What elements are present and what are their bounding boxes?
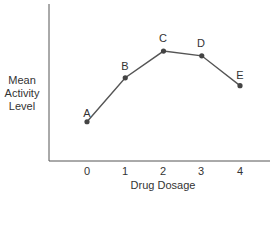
data-point-c: [161, 49, 166, 54]
x-tick-0: 0: [80, 165, 94, 178]
x-tick-1: 1: [118, 165, 132, 178]
data-point-b: [123, 75, 128, 80]
x-tick-2: 2: [156, 165, 170, 178]
point-label-a: A: [80, 107, 94, 120]
data-markers: [84, 49, 242, 125]
x-tick-3: 3: [194, 165, 208, 178]
x-tick-4: 4: [233, 165, 247, 178]
y-axis-label: Mean Activity Level: [0, 74, 44, 113]
point-label-e: E: [233, 69, 247, 82]
point-label-c: C: [156, 32, 170, 45]
x-axis-label: Drug Dosage: [113, 179, 213, 192]
data-point-d: [199, 53, 204, 58]
series-line: [87, 51, 240, 122]
point-label-d: D: [194, 37, 208, 50]
point-label-b: B: [118, 60, 132, 73]
y-label-line-3: Level: [0, 100, 44, 113]
y-label-line-2: Activity: [0, 87, 44, 100]
y-label-line-1: Mean: [0, 74, 44, 87]
data-point-e: [237, 83, 242, 88]
